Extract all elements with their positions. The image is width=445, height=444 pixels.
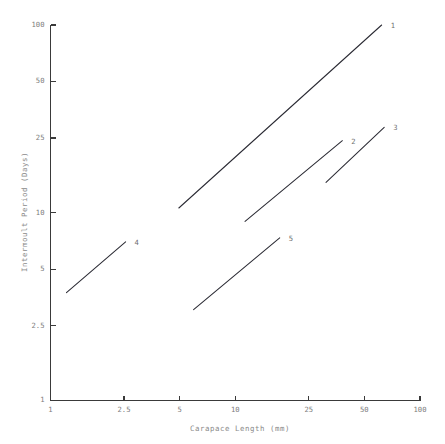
x-tick-label: 100 — [414, 405, 427, 414]
series-label-3: 3 — [393, 123, 397, 132]
x-tick-label: 5 — [177, 405, 181, 414]
x-tick-label: 2.5 — [118, 405, 131, 414]
series-label-1: 1 — [391, 21, 395, 30]
log-log-scatter-chart: 12.55102550100 12.55102550100 12345 Cara… — [0, 0, 445, 444]
y-axis-title: Intermoult Period (Days) — [20, 152, 29, 272]
x-axis-title: Carapace Length (mm) — [190, 424, 290, 433]
y-tick-label: 25 — [36, 133, 45, 142]
y-tick-label: 5 — [40, 264, 44, 273]
y-tick-label: 50 — [36, 76, 45, 85]
y-tick-label: 2.5 — [32, 321, 45, 330]
chart-background — [0, 0, 445, 444]
x-tick-label: 10 — [231, 405, 240, 414]
x-tick-label: 1 — [48, 405, 52, 414]
series-label-5: 5 — [289, 234, 293, 243]
y-tick-label: 10 — [36, 208, 45, 217]
y-tick-label: 1 — [40, 395, 44, 404]
series-label-4: 4 — [135, 238, 139, 247]
series-label-2: 2 — [351, 137, 355, 146]
x-tick-label: 50 — [360, 405, 369, 414]
x-tick-label: 25 — [304, 405, 313, 414]
y-tick-label: 100 — [32, 20, 45, 29]
